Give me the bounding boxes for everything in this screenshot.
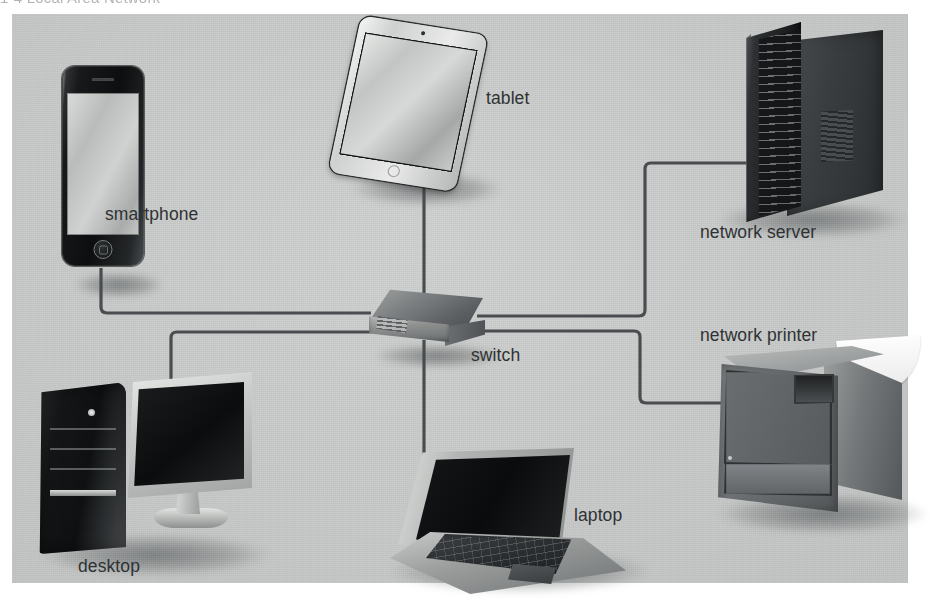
label-tablet: tablet — [486, 88, 529, 109]
desktop-device — [32, 366, 257, 562]
desktop-tower — [38, 382, 126, 554]
desktop-monitor-frame — [124, 372, 252, 498]
network-printer-device — [712, 344, 922, 514]
tablet-camera-icon — [421, 31, 426, 36]
network-server-device — [735, 22, 895, 222]
desktop-monitor-screen — [132, 382, 244, 486]
smartphone-device — [62, 66, 144, 266]
network-server-front-panel — [743, 22, 801, 222]
desktop-drive-bay — [50, 428, 116, 430]
smartphone-home-button — [94, 240, 113, 259]
network-server-vents-icon — [821, 110, 853, 162]
tablet-device — [330, 22, 490, 187]
tablet-rotation-wrapper — [314, 11, 507, 197]
desktop-drive-bay — [50, 468, 116, 470]
desktop-optical-drive — [50, 490, 116, 496]
label-smartphone: smartphone — [105, 204, 198, 225]
desktop-power-button — [88, 409, 95, 416]
network-printer-status-light — [728, 456, 732, 460]
label-network-printer: network printer — [700, 325, 817, 346]
figure-caption: 1-4 Local Area Network — [0, 0, 400, 7]
desktop-drive-bay — [50, 448, 116, 450]
tablet-home-button — [387, 164, 401, 178]
label-network-server: network server — [700, 222, 816, 243]
smartphone-shadow — [74, 272, 164, 298]
smartphone-body — [62, 66, 144, 266]
switch-device — [365, 288, 487, 356]
smartphone-earpiece-icon — [92, 78, 114, 81]
label-switch: switch — [471, 345, 520, 366]
label-laptop: laptop — [574, 505, 622, 526]
network-printer-paper-tray — [724, 462, 832, 496]
network-server-drive-bays — [757, 28, 805, 216]
tablet-body — [328, 15, 488, 192]
label-desktop: desktop — [78, 556, 140, 577]
tablet-screen — [339, 32, 478, 172]
network-printer-output-slot — [794, 374, 834, 404]
